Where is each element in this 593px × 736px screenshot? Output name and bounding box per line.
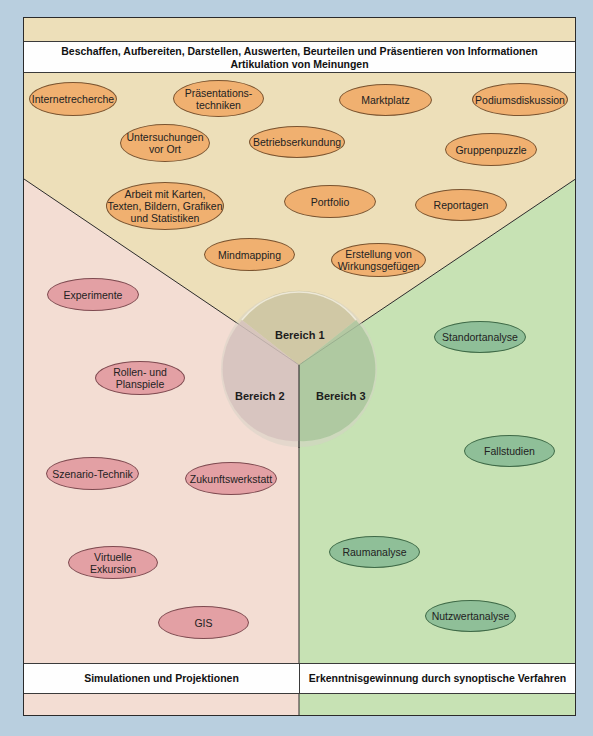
method-standortanalyse: Standortanalyse <box>434 321 526 353</box>
bereich-1-label: Bereich 1 <box>275 329 325 341</box>
method-internetrecherche: Internetrecherche <box>29 82 117 116</box>
method-untersuchungen-vor-ort: Untersuchungenvor Ort <box>120 124 210 162</box>
header-line-1: Beschaffen, Aufbereiten, Darstellen, Aus… <box>24 45 575 58</box>
header-band: Beschaffen, Aufbereiten, Darstellen, Aus… <box>24 41 575 73</box>
method-rollen-und-planspiele: Rollen- undPlanspiele <box>95 361 185 395</box>
method-erstellung-wirkungsgefuege: Erstellung vonWirkungsgefügen <box>331 243 426 277</box>
bereich-3-label: Bereich 3 <box>316 390 366 402</box>
method-gruppenpuzzle: Gruppenpuzzle <box>445 133 537 166</box>
method-zukunftswerkstatt: Zukunftswerkstatt <box>185 462 277 495</box>
method-mindmapping: Mindmapping <box>204 238 295 271</box>
header-line-2: Artikulation von Meinungen <box>24 58 575 71</box>
bereich-2-label: Bereich 2 <box>235 390 285 402</box>
method-betriebserkundung: Betriebserkundung <box>249 126 345 158</box>
method-podiumsdiskussion: Podiumsdiskussion <box>472 83 568 116</box>
method-fallstudien: Fallstudien <box>464 435 555 467</box>
method-arbeit-mit-karten: Arbeit mit Karten,Texten, Bildern, Grafi… <box>106 182 224 230</box>
method-marktplatz: Marktplatz <box>339 84 432 116</box>
method-raumanalyse: Raumanalyse <box>329 536 420 568</box>
footer-band-left: Simulationen und Projektionen <box>24 663 299 694</box>
method-gis: GIS <box>158 606 249 639</box>
method-reportagen: Reportagen <box>415 189 507 221</box>
method-nutzwertanalyse: Nutzwertanalyse <box>425 600 516 632</box>
diagram-frame: Beschaffen, Aufbereiten, Darstellen, Aus… <box>23 17 576 716</box>
method-experimente: Experimente <box>47 278 139 311</box>
method-szenario-technik: Szenario-Technik <box>46 457 139 490</box>
method-praesentationstechniken: Präsentations-techniken <box>173 80 264 117</box>
footer-band-right: Erkenntnisgewinnung durch synoptische Ve… <box>299 663 575 694</box>
method-virtuelle-exkursion: VirtuelleExkursion <box>68 546 158 579</box>
method-portfolio: Portfolio <box>284 185 376 218</box>
